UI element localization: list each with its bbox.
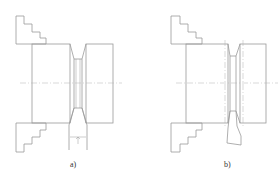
- panel-label-b: b): [224, 160, 231, 169]
- groove-b: [228, 44, 240, 56]
- workpiece-left-b: [186, 44, 228, 123]
- workpiece-right-a: [86, 44, 113, 123]
- panel-label-a: a): [70, 160, 76, 169]
- diagram-canvas: [0, 0, 280, 181]
- groove-a: [70, 44, 86, 59]
- chuck-jaw-top-b: [171, 16, 202, 44]
- chuck-jaw-bottom-a: [16, 123, 46, 152]
- panel-a: [16, 16, 113, 152]
- panel-b: [171, 16, 266, 152]
- chuck-jaw-bottom-b: [171, 123, 202, 152]
- grooving-tool-b: [227, 111, 241, 145]
- workpiece-left-a: [32, 44, 70, 123]
- workpiece-right-b: [240, 44, 266, 123]
- chuck-jaw-top-a: [16, 16, 46, 44]
